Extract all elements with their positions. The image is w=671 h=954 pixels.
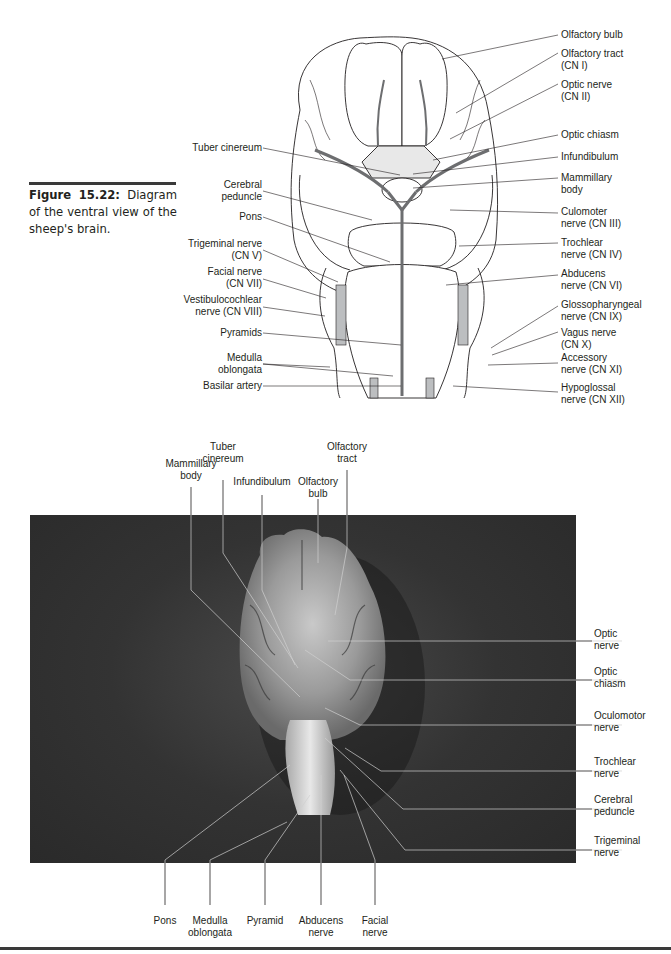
label-line: Infundibulum <box>561 151 618 163</box>
label-line: Cerebral <box>221 179 262 191</box>
label-line: Pons <box>239 211 262 223</box>
diagram-label-hypoglossal-nerve: Hypoglossal nerve (CN XII) <box>561 382 625 406</box>
label-line: Mammillary <box>561 172 612 184</box>
label-line: Infundibulum <box>226 476 298 488</box>
photo-label-tuber-cinereum: Tuber cinereum <box>198 441 248 465</box>
label-line: Abducens <box>291 915 351 927</box>
label-line: oblongata <box>180 927 240 939</box>
label-line: nerve (CN IV) <box>561 249 622 261</box>
label-line: Vagus nerve <box>561 327 616 339</box>
label-line: Culomoter <box>561 206 621 218</box>
photo-label-facial-nerve: Facial nerve <box>350 915 400 939</box>
photo-label-optic-nerve: Optic nerve <box>594 628 619 652</box>
diagram-label-medulla-oblongata: Medulla oblongata <box>218 352 262 376</box>
label-line: nerve (CN III) <box>561 218 621 230</box>
label-line: Trochlear <box>561 237 622 249</box>
label-line: Hypoglossal <box>561 382 625 394</box>
label-line: Pyramids <box>220 327 262 339</box>
label-line: Facial nerve <box>208 266 262 278</box>
label-line: (CN I) <box>561 60 623 72</box>
label-line: peduncle <box>221 191 262 203</box>
diagram-label-olfactory-bulb: Olfactory bulb <box>561 29 623 41</box>
label-line: nerve (CN XI) <box>561 364 622 376</box>
diagram-label-oculomotor-nerve: Culomoter nerve (CN III) <box>561 206 621 230</box>
label-line: Glossopharyngeal <box>561 299 642 311</box>
label-line: Pons <box>145 915 185 927</box>
label-line: Trochlear <box>594 756 636 768</box>
diagram-label-tuber-cinereum: Tuber cinereum <box>192 142 262 154</box>
photo-label-oculomotor-nerve: Oculomotor nerve <box>594 710 646 734</box>
diagram-label-trigeminal-nerve: Trigeminal nerve (CN V) <box>188 238 262 262</box>
label-line: nerve <box>594 768 636 780</box>
label-line: (CN V) <box>188 250 262 262</box>
photo-label-optic-chiasm: Optic chiasm <box>594 666 626 690</box>
label-line: body <box>161 470 221 482</box>
photo-label-trigeminal-nerve: Trigeminal nerve <box>594 835 640 859</box>
label-line: Optic <box>594 666 626 678</box>
label-line: Facial <box>350 915 400 927</box>
photo-label-cerebral-peduncle: Cerebral peduncle <box>594 794 635 818</box>
label-line: (CN II) <box>561 91 612 103</box>
label-line: nerve <box>594 640 619 652</box>
label-line: nerve (CN VI) <box>561 280 622 292</box>
label-line: (CN X) <box>561 339 616 351</box>
label-line: Pyramid <box>240 915 290 927</box>
label-line: Abducens <box>561 268 622 280</box>
label-line: cinereum <box>198 453 248 465</box>
label-line: nerve <box>350 927 400 939</box>
label-line: oblongata <box>218 364 262 376</box>
diagram-label-optic-chiasm: Optic chiasm <box>561 129 619 141</box>
diagram-label-glossopharyngeal-nerve: Glossopharyngeal nerve (CN IX) <box>561 299 642 323</box>
label-line: Cerebral <box>594 794 635 806</box>
diagram-label-accessory-nerve: Accessory nerve (CN XI) <box>561 352 622 376</box>
diagram-label-abducens-nerve: Abducens nerve (CN VI) <box>561 268 622 292</box>
photo-label-trochlear-nerve: Trochlear nerve <box>594 756 636 780</box>
label-line: Olfactory bulb <box>561 29 623 41</box>
label-line: Optic <box>594 628 619 640</box>
label-line: Olfactory <box>322 441 372 453</box>
label-line: Optic chiasm <box>561 129 619 141</box>
label-line: Olfactory <box>293 476 343 488</box>
diagram-label-mammillary-body: Mammillary body <box>561 172 612 196</box>
bottom-rule <box>0 947 671 950</box>
photo-label-medulla-oblongata: Medulla oblongata <box>180 915 240 939</box>
photo-label-pyramid: Pyramid <box>240 915 290 927</box>
photo-label-abducens-nerve: Abducens nerve <box>291 915 351 939</box>
label-line: Basilar artery <box>203 380 262 392</box>
label-line: nerve (CN VIII) <box>184 306 262 318</box>
label-line: bulb <box>293 488 343 500</box>
label-line: nerve <box>291 927 351 939</box>
diagram-label-vagus-nerve: Vagus nerve (CN X) <box>561 327 616 351</box>
label-line: nerve (CN IX) <box>561 311 642 323</box>
brain-photograph <box>30 515 576 863</box>
label-line: body <box>561 184 612 196</box>
diagram-label-basilar-artery: Basilar artery <box>203 380 262 392</box>
photo-label-pons: Pons <box>145 915 185 927</box>
label-line: chiasm <box>594 678 626 690</box>
label-line: Tuber <box>198 441 248 453</box>
label-line: tract <box>322 453 372 465</box>
diagram-label-pons: Pons <box>239 211 262 223</box>
photo-label-olfactory-tract: Olfactory tract <box>322 441 372 465</box>
label-line: nerve <box>594 722 646 734</box>
diagram-label-cerebral-peduncle: Cerebral peduncle <box>221 179 262 203</box>
photo-label-infundibulum: Infundibulum <box>226 476 298 488</box>
photo-label-olfactory-bulb: Olfactory bulb <box>293 476 343 500</box>
label-line: Medulla <box>218 352 262 364</box>
label-line: peduncle <box>594 806 635 818</box>
diagram-label-vestibulocochlear-nerve: Vestibulocochlear nerve (CN VIII) <box>184 294 262 318</box>
label-line: Trigeminal <box>594 835 640 847</box>
label-line: Trigeminal nerve <box>188 238 262 250</box>
diagram-label-pyramids: Pyramids <box>220 327 262 339</box>
diagram-label-optic-nerve: Optic nerve (CN II) <box>561 79 612 103</box>
label-line: nerve (CN XII) <box>561 394 625 406</box>
label-line: (CN VII) <box>208 278 262 290</box>
label-line: Olfactory tract <box>561 48 623 60</box>
label-line: nerve <box>594 847 640 859</box>
diagram-label-facial-nerve: Facial nerve (CN VII) <box>208 266 262 290</box>
label-line: Oculomotor <box>594 710 646 722</box>
label-line: Accessory <box>561 352 622 364</box>
label-line: Optic nerve <box>561 79 612 91</box>
diagram-label-trochlear-nerve: Trochlear nerve (CN IV) <box>561 237 622 261</box>
label-line: Medulla <box>180 915 240 927</box>
